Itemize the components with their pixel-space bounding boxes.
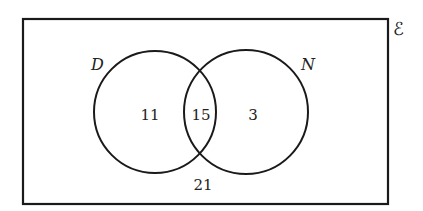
region-n-only: 3 [248,106,258,124]
region-outside: 21 [193,176,212,194]
region-intersection: 15 [191,106,210,124]
venn-diagram: ℰ D N 11 15 3 21 [0,0,423,211]
set-n-label: N [300,55,316,74]
universal-set-symbol: ℰ [393,18,404,39]
region-d-only: 11 [140,106,159,124]
set-d-label: D [90,55,104,74]
